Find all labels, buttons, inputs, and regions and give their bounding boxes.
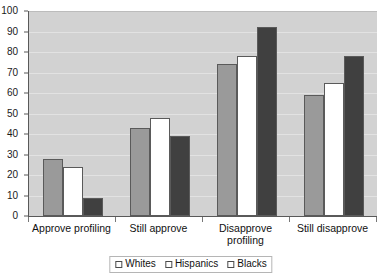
y-tick-label-0: 0 bbox=[12, 211, 18, 221]
x-axis-label-4: Still disapprove bbox=[289, 222, 376, 234]
x-axis-label-2: Still approve bbox=[115, 222, 202, 234]
legend: WhitesHispanicsBlacks bbox=[109, 256, 272, 273]
legend-label-hispanics: Hispanics bbox=[175, 259, 218, 269]
legend-item-whites[interactable]: Whites bbox=[115, 259, 156, 269]
y-axis: 0102030405060708090100 bbox=[0, 0, 24, 227]
y-tick-label-30: 30 bbox=[7, 150, 18, 160]
bar-hispanics-2[interactable] bbox=[150, 118, 170, 216]
bar-whites-4[interactable] bbox=[304, 95, 324, 216]
legend-label-whites: Whites bbox=[125, 259, 156, 269]
y-tick-label-80: 80 bbox=[7, 47, 18, 57]
bar-hispanics-1[interactable] bbox=[63, 167, 83, 216]
bar-group-4 bbox=[304, 11, 364, 216]
x-axis: Approve profilingStill approveDisapprove… bbox=[28, 222, 377, 252]
legend-item-blacks[interactable]: Blacks bbox=[227, 259, 266, 269]
y-tick-label-50: 50 bbox=[7, 109, 18, 119]
bar-whites-1[interactable] bbox=[43, 159, 63, 216]
bar-whites-2[interactable] bbox=[130, 128, 150, 216]
legend-label-blacks: Blacks bbox=[237, 259, 266, 269]
legend-swatch-icon-blacks bbox=[227, 261, 234, 268]
bar-blacks-1[interactable] bbox=[83, 198, 103, 216]
bar-blacks-2[interactable] bbox=[170, 136, 190, 216]
bar-blacks-4[interactable] bbox=[344, 56, 364, 216]
bar-group-1 bbox=[43, 11, 103, 216]
bar-whites-3[interactable] bbox=[217, 64, 237, 216]
legend-item-hispanics[interactable]: Hispanics bbox=[165, 259, 218, 269]
y-tick-label-70: 70 bbox=[7, 68, 18, 78]
y-tick-label-20: 20 bbox=[7, 170, 18, 180]
bar-blacks-3[interactable] bbox=[257, 27, 277, 216]
y-tick-label-100: 100 bbox=[1, 6, 18, 16]
y-tick-label-40: 40 bbox=[7, 129, 18, 139]
x-axis-label-1: Approve profiling bbox=[28, 222, 115, 234]
y-tick-label-60: 60 bbox=[7, 88, 18, 98]
bar-group-2 bbox=[130, 11, 190, 216]
bar-chart: 0102030405060708090100 Approve profiling… bbox=[0, 0, 382, 277]
bar-group-3 bbox=[217, 11, 277, 216]
x-axis-label-3: Disapprove profiling bbox=[202, 222, 289, 246]
legend-swatch-icon-hispanics bbox=[165, 261, 172, 268]
y-tick-label-90: 90 bbox=[7, 27, 18, 37]
plot-area bbox=[28, 11, 377, 217]
legend-swatch-icon-whites bbox=[115, 261, 122, 268]
bar-hispanics-4[interactable] bbox=[324, 83, 344, 216]
y-tick-label-10: 10 bbox=[7, 191, 18, 201]
bar-hispanics-3[interactable] bbox=[237, 56, 257, 216]
